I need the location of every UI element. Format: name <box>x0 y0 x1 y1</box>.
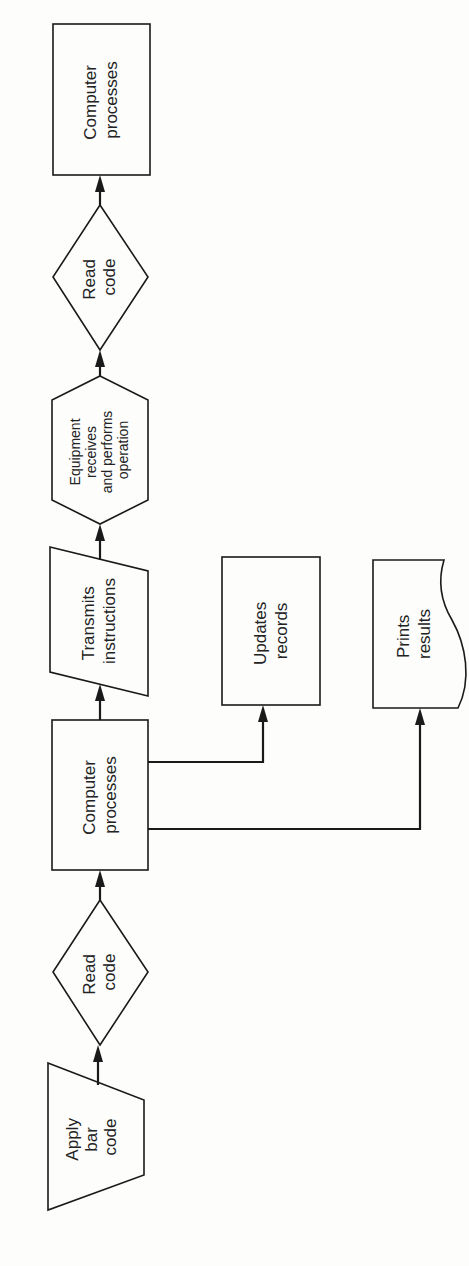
connector-apply-to-read1 <box>93 1045 103 1085</box>
node-read-code-1: Read code <box>53 900 148 1045</box>
node-computer-processes-2: Computer processes <box>53 24 150 175</box>
connector-process1-to-updates <box>148 705 268 762</box>
rectangle-shape <box>52 720 148 870</box>
connector-transmit-to-equipment <box>95 524 105 560</box>
connector-read1-to-process1 <box>95 870 105 900</box>
node-label: Equipment receives and performs operatio… <box>67 407 131 493</box>
rectangle-shape <box>222 557 320 705</box>
node-computer-processes-1: Computer processes <box>52 720 148 870</box>
node-prints-results: Prints results <box>373 560 466 708</box>
connector-process1-to-transmit <box>95 684 105 720</box>
node-label: Apply bar code <box>63 1113 120 1160</box>
node-label: Read code <box>80 949 119 994</box>
node-label: Updates records <box>251 597 291 665</box>
node-equipment-operation: Equipment receives and performs operatio… <box>52 376 148 524</box>
node-label: Prints results <box>394 609 434 659</box>
node-read-code-2: Read code <box>53 205 148 350</box>
parallelogram-shape <box>50 547 148 696</box>
node-label: Read code <box>80 254 119 299</box>
node-label: Transmits instructions <box>79 578 119 664</box>
node-label: Computer processes <box>80 755 120 834</box>
node-apply-bar-code: Apply bar code <box>48 1063 144 1210</box>
node-label: Computer processes <box>81 60 121 139</box>
node-updates-records: Updates records <box>222 557 320 705</box>
connector-equipment-to-read2 <box>95 350 105 376</box>
node-transmits-instructions: Transmits instructions <box>50 547 148 696</box>
connector-process1-to-prints <box>148 708 425 829</box>
flowchart-canvas: Apply bar code Read code Computer proces… <box>0 0 469 1266</box>
connector-read2-to-process2 <box>95 175 105 205</box>
